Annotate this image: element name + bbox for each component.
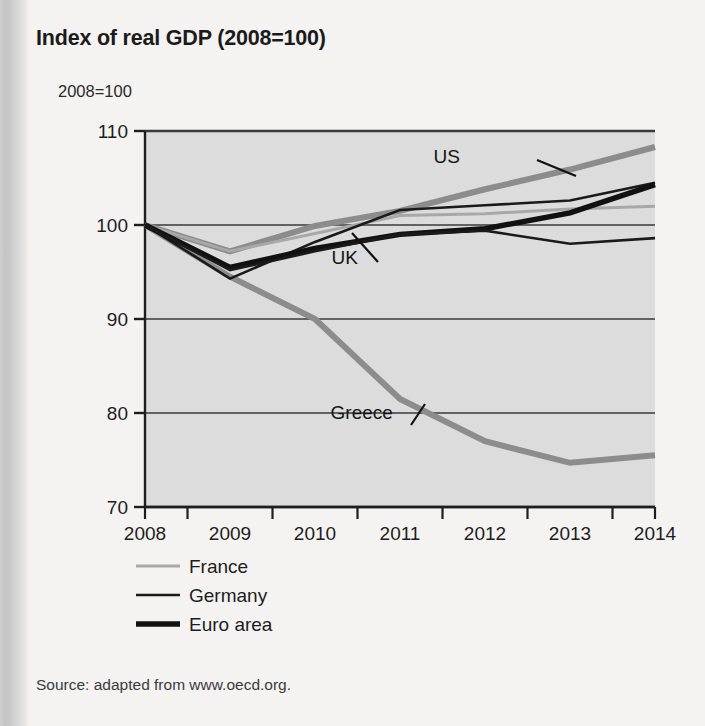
y-tick-label-80: 80 [107,403,128,424]
x-tick-label-2008: 2008 [124,523,166,544]
x-axis-tick-labels: 2008200920102011201220132014 [124,523,677,544]
x-tick-label-2010: 2010 [294,523,336,544]
x-tick-label-2013: 2013 [549,523,591,544]
annotation-uk: UK [332,247,359,268]
y-tick-label-100: 100 [96,215,128,236]
legend-label-euro-area: Euro area [189,614,273,635]
annotation-us: US [434,146,460,167]
annotation-greece: Greece [331,402,393,423]
y-tick-label-90: 90 [107,309,128,330]
chart-legend: FranceGermanyEuro area [136,556,273,635]
x-tick-label-2012: 2012 [464,523,506,544]
x-tick-label-2009: 2009 [209,523,251,544]
legend-label-germany: Germany [189,585,268,606]
y-axis-tick-labels: 708090100110 [96,121,128,518]
legend-label-france: France [189,556,248,577]
x-tick-label-2011: 2011 [380,523,421,544]
y-tick-label-70: 70 [107,497,128,518]
page-gutter-shadow [0,0,29,726]
x-tick-label-2014: 2014 [634,523,677,544]
chart-canvas: 708090100110 200820092010201120122013201… [29,0,705,726]
x-axis-tick-marks [145,507,655,519]
line-chart: 708090100110 200820092010201120122013201… [29,0,705,726]
y-axis-tick-marks [134,131,145,507]
page-surface: Index of real GDP (2008=100) 2008=100 70… [29,0,705,726]
y-tick-label-110: 110 [98,121,128,142]
source-note: Source: adapted from www.oecd.org. [36,676,291,694]
